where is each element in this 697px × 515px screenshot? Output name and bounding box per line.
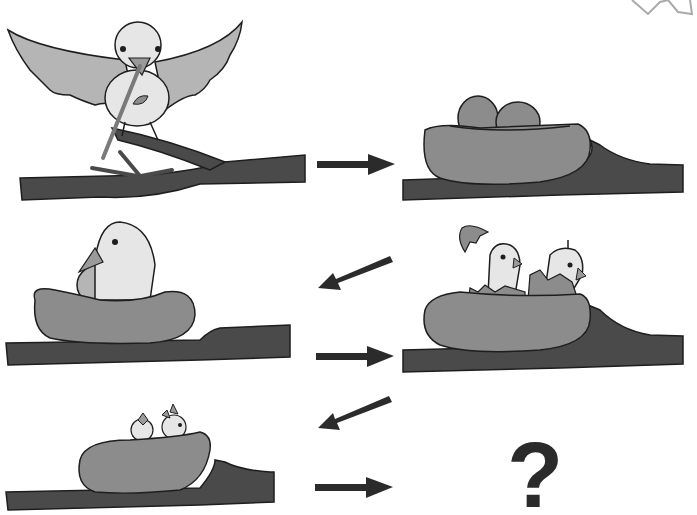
arrow-right-icon — [315, 477, 393, 498]
arrow-down-left-icon — [318, 256, 393, 290]
arrow-down-left-icon — [318, 396, 392, 430]
panel-eggs-in-nest — [403, 96, 683, 200]
panel-incubating — [6, 222, 290, 365]
panel-chicks-in-nest — [6, 404, 274, 510]
panel-hatching — [403, 226, 683, 372]
life-cycle-illustration — [0, 0, 697, 515]
panel-build-nest — [8, 22, 305, 200]
arrow-right-icon — [317, 154, 395, 175]
arrow-right-icon — [316, 346, 394, 367]
question-mark: ? — [505, 430, 565, 515]
star-icon — [632, 0, 692, 14]
